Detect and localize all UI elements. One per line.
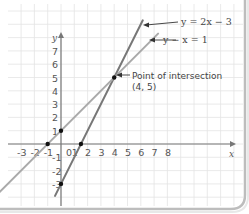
line-series-1 [55, 20, 143, 196]
x-axis-label: x [229, 149, 234, 159]
x-tick-label: 2 [85, 147, 91, 158]
y-tick-label: 3 [52, 99, 58, 110]
y-tick-label: 4 [52, 86, 58, 97]
y-axis-arrow-icon [58, 32, 64, 38]
graph-card: -3-2-1012345678-3-2-11234567 y x y = 2x … [0, 0, 249, 214]
data-point [79, 142, 83, 146]
data-point [59, 129, 63, 133]
x-tick-label: 6 [138, 147, 144, 158]
intersection-annotation: Point of intersection (4, 5) [116, 71, 222, 92]
equation-label-shallow: y − x = 1 [162, 34, 208, 45]
y-axis-label: y [51, 33, 58, 43]
axes [8, 32, 236, 206]
y-tick-label: 6 [52, 59, 58, 70]
x-tick-label: 3 [98, 147, 104, 158]
x-axis-arrow-icon [230, 141, 236, 147]
y-tick-label: 5 [52, 73, 58, 84]
x-tick-label: 5 [125, 147, 131, 158]
line-series-2 [0, 34, 158, 192]
equation-annotation-2: y − x = 1 [149, 34, 208, 45]
intersection-label: Point of intersection [132, 71, 222, 81]
coordinate-plane: -3-2-1012345678-3-2-11234567 y x y = 2x … [0, 0, 249, 214]
data-point [59, 182, 63, 186]
arrow-head-icon [143, 22, 149, 27]
y-tick-label: -1 [52, 152, 61, 163]
y-tick-label: -2 [52, 166, 61, 177]
x-tick-label: 8 [165, 147, 171, 158]
y-tick-label: 7 [52, 46, 58, 57]
equation-annotation-1: y = 2x − 3 [143, 16, 232, 27]
y-tick-label: 2 [52, 112, 58, 123]
x-tick-label: -3 [17, 147, 26, 158]
x-tick-label: 4 [112, 147, 118, 158]
x-tick-label: 7 [152, 147, 158, 158]
equation-label-steep: y = 2x − 3 [180, 16, 232, 27]
data-point [46, 142, 50, 146]
plot-lines [0, 20, 158, 196]
data-point [112, 75, 116, 79]
intersection-coords: (4, 5) [132, 82, 156, 92]
card-shadow [0, 0, 248, 212]
